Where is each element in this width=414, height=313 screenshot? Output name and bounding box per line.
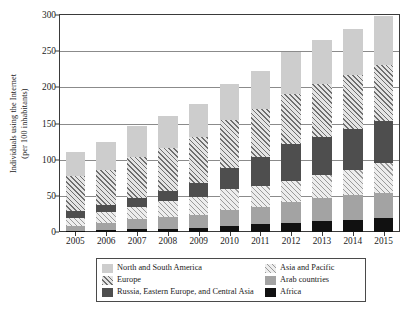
y-tick-label: 300 bbox=[16, 10, 56, 20]
bar-segment-europe-2010[interactable] bbox=[220, 120, 240, 168]
bar-segment-north-and-south-america-2009[interactable] bbox=[189, 104, 209, 137]
bar-column-2006[interactable] bbox=[96, 15, 116, 232]
legend-entry-arab-countries[interactable]: Arab countries bbox=[265, 275, 372, 285]
bar-segment-asia-and-pacific-2012[interactable] bbox=[281, 181, 301, 203]
bar-column-2011[interactable] bbox=[251, 15, 271, 232]
bar-segment-arab-countries-2010[interactable] bbox=[220, 210, 240, 226]
bar-segment-arab-countries-2006[interactable] bbox=[96, 223, 116, 230]
bar-segment-africa-2014[interactable] bbox=[343, 220, 363, 232]
bar-segment-north-and-south-america-2008[interactable] bbox=[158, 116, 178, 149]
bar-segment-russia-eastern-europe-central-asia-2012[interactable] bbox=[281, 144, 301, 180]
bar-segment-north-and-south-america-2007[interactable] bbox=[127, 126, 147, 156]
legend-label: Europe bbox=[117, 275, 141, 285]
bar-segment-europe-2013[interactable] bbox=[312, 84, 332, 137]
bar-segment-asia-and-pacific-2007[interactable] bbox=[127, 207, 147, 219]
y-tick-label: 0 bbox=[16, 227, 56, 237]
bar-segment-africa-2012[interactable] bbox=[281, 223, 301, 232]
swatch-asia-icon bbox=[265, 264, 276, 273]
y-tick-label: 100 bbox=[16, 155, 56, 165]
bar-segment-arab-countries-2005[interactable] bbox=[66, 226, 86, 230]
swatch-russia-icon bbox=[102, 288, 113, 297]
bar-segment-russia-eastern-europe-central-asia-2014[interactable] bbox=[343, 129, 363, 170]
bar-column-2008[interactable] bbox=[158, 15, 178, 232]
bar-segment-russia-eastern-europe-central-asia-2010[interactable] bbox=[220, 168, 240, 189]
bar-segment-asia-and-pacific-2005[interactable] bbox=[66, 218, 86, 226]
bar-segment-asia-and-pacific-2013[interactable] bbox=[312, 175, 332, 198]
bar-segment-russia-eastern-europe-central-asia-2008[interactable] bbox=[158, 191, 178, 201]
bar-segment-russia-eastern-europe-central-asia-2006[interactable] bbox=[96, 205, 116, 212]
y-tick-label: 150 bbox=[16, 119, 56, 129]
bar-column-2005[interactable] bbox=[66, 15, 86, 232]
bar-segment-russia-eastern-europe-central-asia-2009[interactable] bbox=[189, 183, 209, 197]
bar-segment-arab-countries-2015[interactable] bbox=[374, 193, 394, 218]
bar-segment-russia-eastern-europe-central-asia-2015[interactable] bbox=[374, 121, 394, 163]
bar-segment-europe-2012[interactable] bbox=[281, 94, 301, 145]
bar-segment-europe-2015[interactable] bbox=[374, 65, 394, 121]
bar-column-2010[interactable] bbox=[220, 15, 240, 232]
legend-entry-russia-eastern-europe-central-asia[interactable]: Russia, Eastern Europe, and Central Asia bbox=[102, 287, 265, 297]
bar-segment-north-and-south-america-2013[interactable] bbox=[312, 40, 332, 83]
legend-entry-north-and-south-america[interactable]: North and South America bbox=[102, 263, 265, 273]
bar-segment-russia-eastern-europe-central-asia-2013[interactable] bbox=[312, 137, 332, 175]
bar-segment-north-and-south-america-2006[interactable] bbox=[96, 142, 116, 170]
bar-segment-north-and-south-america-2015[interactable] bbox=[374, 16, 394, 64]
bar-segment-arab-countries-2012[interactable] bbox=[281, 202, 301, 222]
bar-segment-arab-countries-2009[interactable] bbox=[189, 215, 209, 227]
bar-column-2012[interactable] bbox=[281, 15, 301, 232]
legend-label: Arab countries bbox=[280, 275, 329, 285]
bar-column-2013[interactable] bbox=[312, 15, 332, 232]
bar-segment-north-and-south-america-2011[interactable] bbox=[251, 71, 271, 109]
x-tick-label-2015: 2015 bbox=[364, 236, 404, 246]
chart-legend: North and South AmericaAsia and PacificE… bbox=[96, 258, 366, 302]
bar-segment-africa-2011[interactable] bbox=[251, 224, 271, 232]
bar-segment-europe-2014[interactable] bbox=[343, 75, 363, 129]
bar-segment-russia-eastern-europe-central-asia-2011[interactable] bbox=[251, 157, 271, 186]
bar-segment-asia-and-pacific-2015[interactable] bbox=[374, 163, 394, 193]
legend-entry-asia-and-pacific[interactable]: Asia and Pacific bbox=[265, 263, 372, 273]
bar-segment-europe-2011[interactable] bbox=[251, 109, 271, 157]
legend-label: Asia and Pacific bbox=[280, 263, 334, 273]
bar-segment-asia-and-pacific-2008[interactable] bbox=[158, 201, 178, 217]
y-tick-label: 250 bbox=[16, 46, 56, 56]
bar-segment-europe-2006[interactable] bbox=[96, 170, 116, 205]
swatch-americas-icon bbox=[102, 264, 113, 273]
bar-segment-russia-eastern-europe-central-asia-2007[interactable] bbox=[127, 198, 147, 207]
bar-segment-russia-eastern-europe-central-asia-2005[interactable] bbox=[66, 211, 86, 218]
legend-label: Russia, Eastern Europe, and Central Asia bbox=[117, 287, 254, 297]
bar-segment-arab-countries-2013[interactable] bbox=[312, 198, 332, 221]
bar-column-2007[interactable] bbox=[127, 15, 147, 232]
chart-figure: Individuals using the Internet (per 100 … bbox=[0, 0, 414, 313]
bar-segment-north-and-south-america-2005[interactable] bbox=[66, 152, 86, 177]
y-tick-label: 200 bbox=[16, 82, 56, 92]
bar-segment-north-and-south-america-2010[interactable] bbox=[220, 84, 240, 120]
y-tick-label: 50 bbox=[16, 191, 56, 201]
bar-segment-arab-countries-2011[interactable] bbox=[251, 207, 271, 224]
bar-column-2014[interactable] bbox=[343, 15, 363, 232]
bar-segment-arab-countries-2007[interactable] bbox=[127, 219, 147, 229]
bar-segment-europe-2005[interactable] bbox=[66, 176, 86, 211]
legend-label: Africa bbox=[280, 287, 301, 297]
bar-segment-asia-and-pacific-2011[interactable] bbox=[251, 186, 271, 206]
bar-segment-africa-2015[interactable] bbox=[374, 218, 394, 232]
bar-segment-arab-countries-2008[interactable] bbox=[158, 217, 178, 229]
bar-segment-europe-2008[interactable] bbox=[158, 148, 178, 191]
swatch-africa-icon bbox=[265, 288, 276, 297]
swatch-arab-icon bbox=[265, 276, 276, 285]
legend-label: North and South America bbox=[117, 263, 202, 273]
bar-segment-europe-2007[interactable] bbox=[127, 157, 147, 198]
bar-segment-asia-and-pacific-2014[interactable] bbox=[343, 170, 363, 195]
bar-column-2015[interactable] bbox=[374, 15, 394, 232]
bar-segment-asia-and-pacific-2009[interactable] bbox=[189, 197, 209, 215]
bar-segment-north-and-south-america-2012[interactable] bbox=[281, 52, 301, 94]
bar-series-layer bbox=[60, 15, 399, 232]
legend-entry-africa[interactable]: Africa bbox=[265, 287, 372, 297]
swatch-europe-icon bbox=[102, 276, 113, 285]
bar-segment-asia-and-pacific-2006[interactable] bbox=[96, 212, 116, 223]
bar-segment-asia-and-pacific-2010[interactable] bbox=[220, 189, 240, 211]
bar-segment-arab-countries-2014[interactable] bbox=[343, 195, 363, 220]
bar-segment-europe-2009[interactable] bbox=[189, 137, 209, 183]
bar-segment-north-and-south-america-2014[interactable] bbox=[343, 29, 363, 75]
bar-segment-africa-2013[interactable] bbox=[312, 221, 332, 232]
legend-entry-europe[interactable]: Europe bbox=[102, 275, 265, 285]
bar-column-2009[interactable] bbox=[189, 15, 209, 232]
